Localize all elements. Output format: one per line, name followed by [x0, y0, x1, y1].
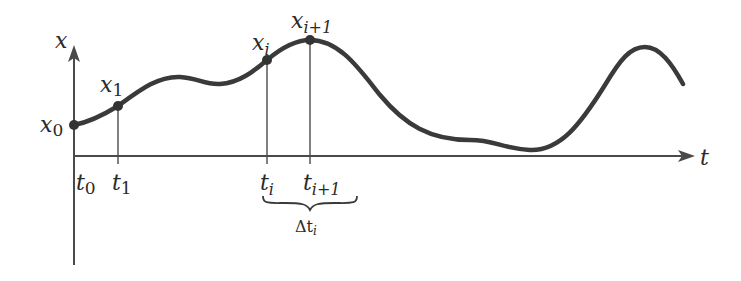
trajectory-curve — [74, 40, 683, 150]
tick-label-t0: t0 — [76, 170, 96, 198]
point-x1 — [113, 101, 123, 111]
drop-lines — [118, 40, 310, 164]
underbrace-icon — [263, 196, 357, 210]
point-label-xi: xi — [252, 30, 270, 59]
point-label-xi1: xi+1 — [291, 8, 332, 37]
tick-label-ti: ti — [260, 170, 274, 199]
horizontal-axis-label: t — [700, 145, 709, 170]
trajectory-diagram: x t x0 x1 xi xi+1 t0 t1 ti ti+1 — [0, 0, 741, 281]
horizontal-axis — [74, 150, 695, 162]
point-label-x1: x1 — [100, 72, 123, 100]
point-x0 — [69, 120, 79, 130]
vertical-axis-label: x — [55, 28, 68, 53]
tick-label-ti1: ti+1 — [303, 170, 341, 199]
point-label-x0: x0 — [40, 112, 63, 140]
delta-t-label: Δti — [295, 217, 317, 238]
tick-label-t1: t1 — [112, 170, 132, 198]
